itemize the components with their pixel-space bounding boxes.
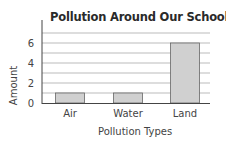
x-tick-label: Air [63,108,78,119]
y-tick-label: 0 [28,98,34,109]
y-tick-label: 4 [28,58,34,69]
bar-chart: 0246AirWaterLand [0,0,226,150]
y-tick-label: 2 [28,78,34,89]
bar-land [171,43,200,103]
x-tick-label: Water [113,108,143,119]
x-tick-label: Land [173,108,197,119]
y-tick-label: 6 [28,38,34,49]
bar-air [56,93,85,103]
bar-water [114,93,143,103]
